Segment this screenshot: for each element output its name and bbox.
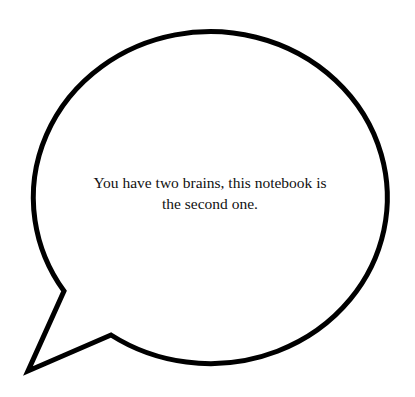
speech-bubble-text: You have two brains, this notebook is th…: [92, 172, 328, 214]
